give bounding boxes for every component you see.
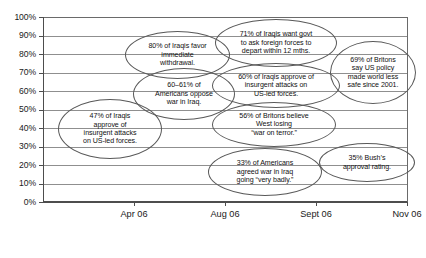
callout-iraqis-approve-insurgent-attacks-47[interactable]: 47% of Iraqis approve of insurgent attac…: [58, 99, 162, 159]
callout-text: 35% Bush’s approval rating.: [328, 154, 406, 171]
ytick-label-90: 90%: [0, 31, 36, 40]
callout-americans-war-going-very-badly[interactable]: 33% of Americans agreed war in Iraq goin…: [208, 148, 322, 196]
callout-britons-us-policy-less-safe[interactable]: 69% of Britons say US policy made world …: [330, 41, 416, 104]
opinion-poll-bubble-chart: 100% 90% 80% 70% 60% 50% 40% 30% 20% 10%…: [0, 0, 426, 258]
ytick-mark-30: [39, 147, 43, 148]
xtick-mark-aug06: [225, 202, 226, 206]
ytick-mark-50: [39, 110, 43, 111]
xtick-label-aug06: Aug 06: [180, 209, 270, 220]
ytick-label-40: 40%: [0, 124, 36, 133]
ytick-mark-90: [39, 36, 43, 37]
ytick-mark-10: [39, 184, 43, 185]
callout-britons-west-losing-war-on-terror[interactable]: 56% of Britons believe West losing “war …: [212, 102, 336, 147]
xtick-mark-apr06: [134, 202, 135, 206]
ytick-label-20: 20%: [0, 161, 36, 170]
xtick-label-sept06: Sept 06: [271, 209, 361, 220]
ytick-mark-0: [39, 202, 43, 203]
xtick-label-apr06: Apr 06: [89, 209, 179, 220]
callout-text: 47% of Iraqis approve of insurgent attac…: [67, 112, 153, 146]
ytick-mark-70: [39, 73, 43, 74]
callout-bush-approval-rating[interactable]: 35% Bush’s approval rating.: [319, 143, 415, 182]
ytick-label-60: 60%: [0, 87, 36, 96]
callout-text: 60% of Iraqis approve of insurgent attac…: [221, 73, 331, 98]
ytick-mark-80: [39, 54, 43, 55]
callout-text: 60–61% of Americans oppose war in Iraq.: [142, 81, 226, 106]
xtick-mark-sept06: [316, 202, 317, 206]
callout-text: 69% of Britons say US policy made world …: [339, 56, 407, 90]
callout-iraqis-want-govt-ask-foreign-forces[interactable]: 71% of Iraqis want govt to ask foreign f…: [215, 19, 337, 67]
ytick-label-10: 10%: [0, 179, 36, 188]
ytick-mark-60: [39, 91, 43, 92]
xtick-label-nov06: Nov 06: [362, 209, 426, 220]
callout-text: 80% of Iraqis favor immediate withdrawal…: [134, 42, 221, 67]
ytick-label-0: 0%: [0, 198, 36, 207]
callout-text: 71% of Iraqis want govt to ask foreign f…: [224, 30, 328, 55]
xtick-mark-nov06: [407, 202, 408, 206]
ytick-label-30: 30%: [0, 142, 36, 151]
ytick-mark-20: [39, 165, 43, 166]
ytick-label-70: 70%: [0, 68, 36, 77]
ytick-mark-100: [39, 17, 43, 18]
ytick-mark-40: [39, 128, 43, 129]
callout-text: 33% of Americans agreed war in Iraq goin…: [217, 159, 313, 184]
ytick-label-80: 80%: [0, 50, 36, 59]
plot-right-border: [407, 17, 408, 202]
ytick-label-100: 100%: [0, 13, 36, 22]
callout-text: 56% of Britons believe West losing “war …: [221, 112, 327, 137]
ytick-label-50: 50%: [0, 105, 36, 114]
